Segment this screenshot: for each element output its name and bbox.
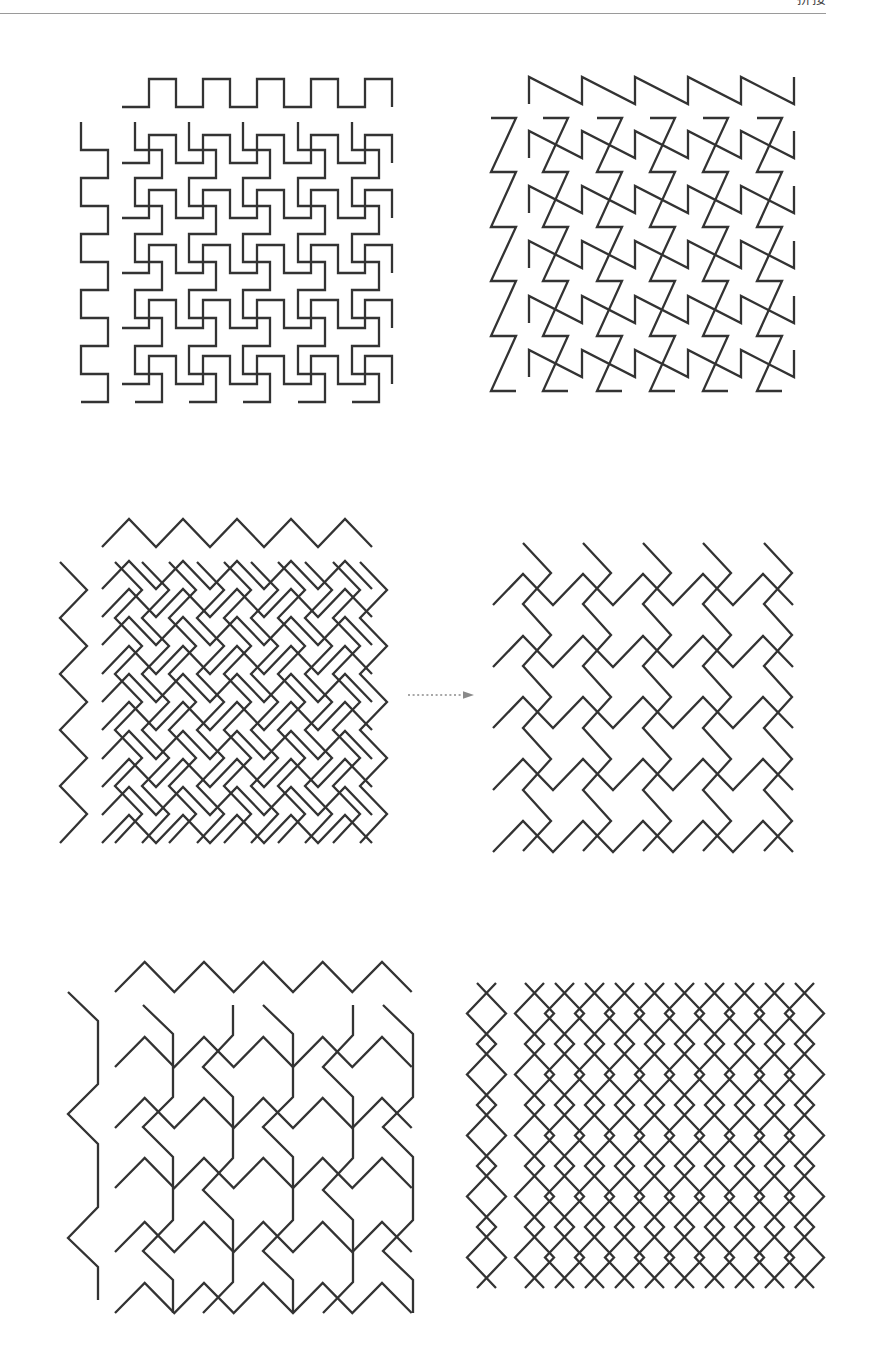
panel-pinwheel-result-grid [493,543,793,852]
pattern-line [491,118,516,391]
pattern-line [523,543,551,851]
pattern-line [115,1098,412,1128]
pattern-line [102,519,372,547]
transform-arrow [408,691,474,699]
pattern-line [597,118,622,391]
pattern-line [764,543,792,851]
pattern-line [115,1283,412,1313]
pattern-line [115,962,412,992]
pattern-line [493,636,793,667]
pattern-line [115,1222,412,1252]
arrow-head-icon [463,691,474,699]
pattern-line [703,543,731,851]
pattern-line [493,574,793,605]
panel-square-meander-grid [81,79,392,402]
pattern-line [68,992,98,1300]
panel-hex-zigzag-grid [68,962,413,1313]
pattern-line [81,122,108,402]
pattern-line [323,1005,353,1313]
pattern-line [122,79,392,107]
pattern-line [60,562,87,843]
pattern-line [360,562,387,843]
pattern-line [115,1158,412,1188]
pattern-line [650,118,675,391]
pattern-line [643,543,671,851]
panel-diagonal-zigzag-dense-grid [60,519,387,843]
pattern-line [383,1005,413,1313]
pattern-line [203,1005,233,1313]
pattern-line [583,543,611,851]
pattern-line [529,77,794,104]
pattern-line [757,118,782,391]
panel-z-zigzag-grid [491,77,794,391]
pattern-line [115,1037,412,1067]
pattern-plate [0,0,873,1356]
pattern-line [543,118,568,391]
panel-double-diamond-chain-grid [467,983,824,1288]
pattern-line [703,118,728,391]
